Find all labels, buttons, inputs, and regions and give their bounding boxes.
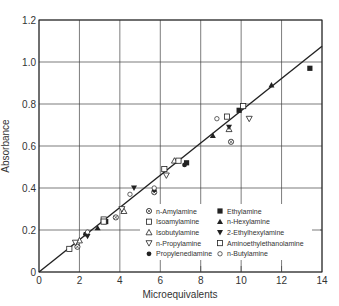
circle-filled-marker <box>147 251 152 256</box>
circle-open-marker <box>215 117 219 121</box>
legend-label: n-Amylamine <box>156 208 197 216</box>
y-tick-label: 0 <box>30 267 36 278</box>
y-tick-label: 0.2 <box>22 225 36 236</box>
legend-label: Isobutylamine <box>156 229 199 237</box>
square-open-marker <box>241 104 246 109</box>
square-open-marker <box>176 158 181 163</box>
square-open-marker <box>67 246 72 251</box>
legend-label: n-Hexylamine <box>227 218 270 226</box>
legend-label: Aminoethylethanolamine <box>227 240 304 248</box>
y-tick-label: 0.6 <box>22 141 36 152</box>
square-filled-marker <box>307 66 312 71</box>
y-tick-label: 1.0 <box>22 57 36 68</box>
legend-label: 2-Ethylhexylamine <box>227 229 284 237</box>
triangle-down-open-marker <box>163 173 169 178</box>
legend-label: Propylenediamine <box>156 250 212 258</box>
x-axis-label: Microequivalents <box>142 289 217 300</box>
legend-item: Aminoethylethanolamine <box>217 240 303 248</box>
x-tick-label: 12 <box>276 275 288 286</box>
series-ethylamine <box>103 66 312 225</box>
x-tick-label: 6 <box>158 275 164 286</box>
circle-open-marker <box>218 252 222 256</box>
legend-label: n-Butylamine <box>227 250 268 258</box>
y-tick-label: 0.4 <box>22 183 36 194</box>
y-axis-label: Absorbance <box>0 119 11 173</box>
x-tick-label: 10 <box>236 275 248 286</box>
legend-item: Propylenediamine <box>147 250 213 258</box>
square-filled-marker <box>184 160 189 165</box>
square-open-marker <box>162 167 167 172</box>
circle-open-marker <box>85 230 89 234</box>
square-filled-marker <box>217 208 222 213</box>
legend: n-AmylamineIsoamylamineIsobutylaminen-Pr… <box>140 204 322 272</box>
square-open-marker <box>146 219 151 224</box>
triangle-down-filled-marker <box>85 234 91 239</box>
circle-cross-marker <box>146 208 151 213</box>
circle-open-marker <box>152 186 156 190</box>
legend-item: 2-Ethylhexylamine <box>217 229 284 237</box>
y-tick-label: 1.2 <box>22 15 36 26</box>
x-tick-label: 4 <box>117 275 123 286</box>
x-tick-label: 14 <box>316 275 328 286</box>
square-open-marker <box>217 241 222 246</box>
absorbance-chart: 0246810121400.20.40.60.81.01.2 n-Amylami… <box>0 0 339 306</box>
x-tick-label: 0 <box>36 275 42 286</box>
x-tick-label: 2 <box>77 275 83 286</box>
circle-cross-marker <box>113 215 118 220</box>
square-open-marker <box>224 114 229 119</box>
legend-label: Isoamylamine <box>156 218 199 226</box>
legend-label: Ethylamine <box>227 208 262 216</box>
circle-open-marker <box>128 192 132 196</box>
circle-cross-marker <box>228 139 233 144</box>
x-tick-label: 8 <box>198 275 204 286</box>
square-open-marker <box>101 219 106 224</box>
y-tick-label: 0.8 <box>22 99 36 110</box>
triangle-down-open-marker <box>246 116 252 121</box>
legend-label: n-Propylamine <box>156 240 201 248</box>
